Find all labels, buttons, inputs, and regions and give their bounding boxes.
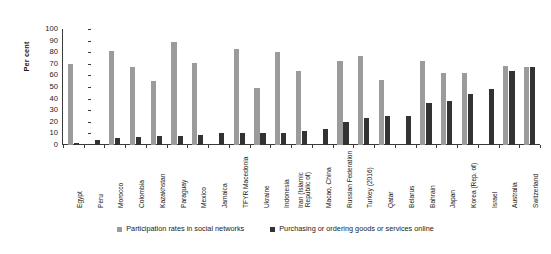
bar-online-purchasing <box>385 116 390 145</box>
x-axis-tick-mark <box>457 145 458 148</box>
legend-label: Purchasing or ordering goods or services… <box>279 225 434 233</box>
x-axis-label-jamaica: Jamaica <box>221 183 228 208</box>
bar-group <box>109 29 120 145</box>
bar-group <box>130 29 141 145</box>
bar-social-networks <box>130 67 135 145</box>
x-axis-tick-mark <box>84 145 85 148</box>
legend-item: Participation rates in social networks <box>117 225 244 233</box>
bar-social-networks <box>275 52 280 145</box>
bar-group <box>234 29 245 145</box>
bar-group <box>337 29 348 145</box>
bar-online-purchasing <box>509 71 514 145</box>
bar-online-purchasing <box>489 89 494 145</box>
x-axis-label-korea-rep-of: Korea (Rep. of) <box>470 163 477 208</box>
x-axis-label-iran-islamic-republic-of: Iran (IslamicRepublic of) <box>298 172 312 208</box>
bar-social-networks <box>68 64 73 145</box>
bar-online-purchasing <box>260 133 265 145</box>
bar-social-networks <box>462 73 467 145</box>
bar-online-purchasing <box>240 133 245 145</box>
x-axis-tick-mark <box>167 145 168 148</box>
x-axis-label-colombia: Colombia <box>138 180 145 208</box>
x-axis-tick-mark <box>104 145 105 148</box>
bar-social-networks <box>379 80 384 145</box>
bar-group <box>400 29 411 145</box>
x-axis-tick-mark <box>229 145 230 148</box>
bar-online-purchasing <box>364 118 369 145</box>
bar-group <box>358 29 369 145</box>
y-axis-tick-20: 20 <box>50 118 58 126</box>
legend-item: Purchasing or ordering goods or services… <box>270 225 434 233</box>
x-axis-label-israel: Israel <box>491 192 498 208</box>
x-axis-tick-mark <box>333 145 334 148</box>
bar-online-purchasing <box>178 136 183 145</box>
x-axis-tick-mark <box>125 145 126 148</box>
bar-group <box>213 29 224 145</box>
y-axis-tick-0: 0 <box>54 141 58 149</box>
bar-social-networks <box>503 66 508 145</box>
bar-social-networks <box>524 67 529 145</box>
x-axis-tick-mark <box>187 145 188 148</box>
bar-online-purchasing <box>447 101 452 145</box>
x-axis-labels: EgyptPeruMoroccoColombiaKazakhstanParagu… <box>63 150 540 212</box>
x-axis-tick-mark <box>519 145 520 148</box>
x-axis-tick-mark <box>499 145 500 148</box>
bar-online-purchasing <box>302 131 307 145</box>
bar-group <box>296 29 307 145</box>
bar-social-networks <box>234 49 239 145</box>
x-axis-tick-mark <box>416 145 417 148</box>
x-axis-tick-mark <box>270 145 271 148</box>
y-axis-tick-60: 60 <box>50 71 58 79</box>
bar-group <box>171 29 182 145</box>
y-axis-tick-30: 30 <box>50 106 58 114</box>
x-axis-label-qatar: Qatar <box>387 192 394 209</box>
bar-group <box>151 29 162 145</box>
y-axis-tick-90: 90 <box>50 37 58 45</box>
bar-groups <box>63 29 540 145</box>
x-axis-label-egypt: Egypt <box>76 191 83 208</box>
x-axis-label-turkey-2016: Turkey (2016) <box>366 167 373 208</box>
x-axis-tick-mark <box>312 145 313 148</box>
bar-online-purchasing <box>115 138 120 145</box>
bar-online-purchasing <box>530 67 535 145</box>
bar-online-purchasing <box>343 122 348 145</box>
bar-social-networks <box>358 56 363 145</box>
bar-online-purchasing <box>198 135 203 145</box>
bar-group <box>503 29 514 145</box>
legend-swatch-icon <box>117 227 122 232</box>
x-axis-label-paraguay: Paraguay <box>180 180 187 208</box>
x-axis-label-macao-china: Macao, China <box>325 167 332 208</box>
bar-social-networks <box>337 61 342 145</box>
x-axis-label-morocco: Morocco <box>117 183 124 208</box>
x-axis-tick-mark <box>436 145 437 148</box>
bar-group <box>441 29 452 145</box>
x-axis-label-ukraine: Ukraine <box>263 185 270 208</box>
bar-online-purchasing <box>426 103 431 145</box>
bar-group <box>88 29 99 145</box>
bar-online-purchasing <box>157 136 162 145</box>
bar-social-networks <box>192 63 197 145</box>
x-axis-label-australia: Australia <box>511 182 518 208</box>
x-axis-tick-mark <box>540 145 541 148</box>
y-axis-tick-10: 10 <box>50 129 58 137</box>
x-axis-tick-mark <box>250 145 251 148</box>
bar-group <box>483 29 494 145</box>
x-axis-tick-mark <box>291 145 292 148</box>
y-axis-tick-100: 100 <box>45 25 58 33</box>
x-axis-label-mexico: Mexico <box>200 187 207 208</box>
x-axis-tick-mark <box>478 145 479 148</box>
x-axis-tick-mark <box>395 145 396 148</box>
bar-group <box>192 29 203 145</box>
bar-social-networks <box>441 73 446 145</box>
chart-figure: Per cent 1009080706050403020100 EgyptPer… <box>0 0 551 254</box>
bar-online-purchasing <box>323 129 328 145</box>
chart-legend: Participation rates in social networksPu… <box>0 222 551 236</box>
y-axis-tick-80: 80 <box>50 48 58 56</box>
bar-group <box>254 29 265 145</box>
x-axis-tick-mark <box>374 145 375 148</box>
bar-social-networks <box>420 61 425 145</box>
bar-group <box>524 29 535 145</box>
x-axis-label-indonesia: Indonesia <box>283 179 290 208</box>
x-axis-label-tfyr-macedonia: TFYR Macedonia <box>242 157 249 208</box>
x-axis-tick-mark <box>63 145 64 148</box>
legend-swatch-icon <box>270 227 275 232</box>
